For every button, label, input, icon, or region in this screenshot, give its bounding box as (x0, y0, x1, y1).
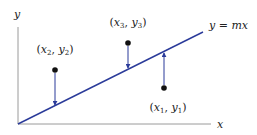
regression-line-label: y = mx (208, 19, 249, 32)
point-label: (x2, y2) (37, 43, 74, 57)
point-label: (x1, y1) (150, 101, 187, 115)
point-marker (125, 40, 131, 46)
point-marker (161, 85, 167, 91)
data-point-p1: (x1, y1) (150, 53, 187, 115)
data-point-p3: (x3, y3) (110, 16, 147, 68)
x-axis-label: x (217, 118, 224, 131)
point-marker (52, 67, 58, 73)
least-squares-diagram: y x y = mx (x1, y1)(x2, y2)(x3, y3) (0, 0, 257, 135)
data-point-p2: (x2, y2) (37, 43, 74, 105)
point-label: (x3, y3) (110, 16, 147, 30)
y-axis-label: y (13, 8, 21, 21)
data-points: (x1, y1)(x2, y2)(x3, y3) (37, 16, 187, 115)
